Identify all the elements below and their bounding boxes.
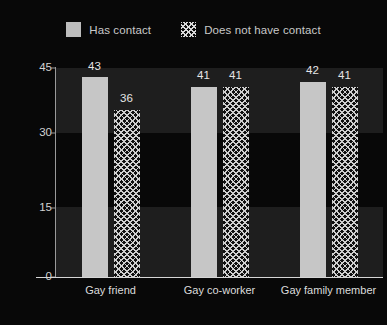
bar-has-contact[interactable] — [82, 77, 108, 277]
bar-holder: 43 — [82, 68, 108, 277]
bar-value-label: 41 — [229, 70, 242, 82]
x-axis-labels: Gay friendGay co-workerGay family member — [56, 284, 383, 308]
bar-group: 4336 — [82, 68, 140, 277]
legend-label-has-contact: Has contact — [89, 24, 151, 36]
bar-holder: 41 — [223, 68, 249, 277]
bar-does-not-have-contact[interactable] — [223, 87, 249, 277]
bar-group: 4241 — [300, 68, 358, 277]
solid-square-icon — [66, 22, 81, 37]
bar-holder: 36 — [114, 68, 140, 277]
y-tick-15: 15 — [0, 202, 52, 214]
plot-area: 433641414241 — [56, 68, 383, 277]
bar-holder: 42 — [300, 68, 326, 277]
bar-holder: 41 — [332, 68, 358, 277]
bar-does-not-have-contact[interactable] — [114, 110, 140, 277]
bar-value-label: 41 — [338, 70, 351, 82]
x-axis-label: Gay friend — [85, 284, 136, 296]
bar-holder: 41 — [191, 68, 217, 277]
crosshatch-square-icon — [181, 22, 196, 37]
chart-legend: Has contact Does not have contact — [0, 22, 387, 37]
x-axis-line — [36, 277, 383, 278]
y-tick-30: 30 — [0, 127, 52, 139]
bar-value-label: 41 — [197, 70, 210, 82]
x-axis-label: Gay family member — [281, 284, 376, 296]
legend-label-does-not-have-contact: Does not have contact — [204, 24, 321, 36]
bar-has-contact[interactable] — [191, 87, 217, 277]
bar-value-label: 43 — [88, 61, 101, 73]
bar-group: 4141 — [191, 68, 249, 277]
bar-value-label: 36 — [120, 93, 133, 105]
y-tick-45: 45 — [0, 62, 52, 74]
bar-chart: Has contact Does not have contact 45 30 … — [0, 0, 387, 325]
bar-has-contact[interactable] — [300, 82, 326, 277]
legend-item-has-contact[interactable]: Has contact — [66, 22, 151, 37]
legend-item-does-not-have-contact[interactable]: Does not have contact — [181, 22, 321, 37]
bar-does-not-have-contact[interactable] — [332, 87, 358, 277]
x-axis-label: Gay co-worker — [184, 284, 256, 296]
bar-value-label: 42 — [306, 65, 319, 77]
bar-groups: 433641414241 — [56, 68, 383, 277]
